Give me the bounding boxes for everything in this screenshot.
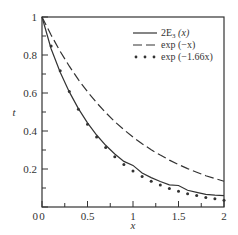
legend-label-exp-x: exp (−x) — [161, 39, 195, 51]
data-point — [204, 196, 207, 199]
data-point — [50, 45, 53, 48]
x-axis-ticks — [42, 201, 224, 207]
data-point — [150, 180, 153, 183]
y-tick-label: 0 — [33, 210, 39, 222]
y-tick-label: 0.2 — [23, 163, 37, 175]
data-point — [223, 199, 226, 202]
data-point — [122, 163, 125, 166]
data-point — [159, 183, 162, 186]
y-axis-label: t — [12, 106, 16, 118]
legend-item-dashed: exp (−x) — [133, 39, 195, 51]
data-point — [186, 192, 189, 195]
data-point — [104, 146, 107, 149]
data-point — [68, 90, 71, 93]
legend-dot-icon — [144, 56, 147, 59]
y-tick-label: 1 — [32, 11, 38, 23]
data-point — [59, 69, 62, 72]
legend-dot-icon — [135, 56, 138, 59]
data-point — [177, 190, 180, 193]
x-tick-label: 2 — [221, 210, 227, 222]
x-tick-label: 0 — [39, 210, 45, 222]
legend: 2E3 (x) exp (−x) exp (−1.66x) — [133, 27, 213, 63]
x-axis-label: x — [130, 219, 136, 231]
data-point — [168, 187, 171, 190]
data-point — [213, 197, 216, 200]
legend-item-dotted: exp (−1.66x) — [135, 51, 213, 63]
legend-dot-icon — [153, 56, 156, 59]
data-point — [95, 135, 98, 138]
legend-label-exp-166x: exp (−1.66x) — [161, 51, 213, 63]
data-point — [132, 169, 135, 172]
x-tick-label: 1.5 — [172, 210, 186, 222]
series-2e3-line — [42, 17, 224, 196]
data-point — [77, 108, 80, 111]
data-point — [141, 175, 144, 178]
y-tick-label: 0.8 — [23, 49, 37, 61]
y-axis-ticks — [42, 17, 48, 207]
chart: 00.511.52 00.20.40.60.81 x t 2E3 (x) exp… — [0, 0, 238, 235]
series-exp-x-line — [42, 17, 224, 181]
data-point — [195, 194, 198, 197]
y-axis-tick-labels: 00.20.40.60.81 — [23, 11, 38, 222]
data-point — [113, 155, 116, 158]
y-tick-label: 0.4 — [23, 125, 37, 137]
y-tick-label: 0.6 — [23, 87, 37, 99]
data-point — [86, 123, 89, 126]
x-tick-label: 0.5 — [81, 210, 95, 222]
